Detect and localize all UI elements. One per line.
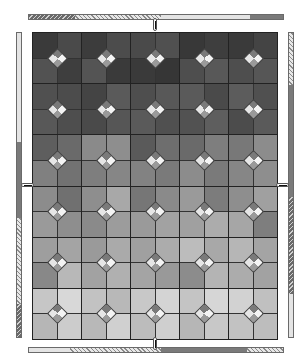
board-tile[interactable]	[229, 135, 277, 185]
board-tile[interactable]	[229, 84, 277, 134]
bar-segment	[17, 304, 21, 337]
board-tile[interactable]	[82, 135, 130, 185]
bar-segment	[70, 348, 161, 352]
bar-segment	[17, 33, 21, 142]
board-tile[interactable]	[131, 289, 179, 339]
board-tile[interactable]	[33, 289, 81, 339]
bar-segment	[75, 15, 161, 19]
board-tile[interactable]	[180, 238, 228, 288]
board-tile[interactable]	[131, 187, 179, 237]
bar-segment	[289, 197, 293, 294]
board-tile[interactable]	[180, 187, 228, 237]
board-tile[interactable]	[180, 84, 228, 134]
board-tile[interactable]	[131, 84, 179, 134]
board-tile[interactable]	[131, 238, 179, 288]
board-tile[interactable]	[82, 238, 130, 288]
game-board[interactable]	[32, 32, 278, 340]
board-tile[interactable]	[33, 84, 81, 134]
board-tile[interactable]	[180, 135, 228, 185]
bar-segment	[29, 15, 75, 19]
top-pointer-icon[interactable]	[153, 18, 157, 31]
board-tile[interactable]	[82, 84, 130, 134]
board-tile[interactable]	[131, 33, 179, 83]
bar-segment	[161, 348, 247, 352]
board-tile[interactable]	[82, 187, 130, 237]
bar-segment	[247, 348, 283, 352]
board-tile[interactable]	[131, 135, 179, 185]
bar-segment	[161, 15, 250, 19]
bar-segment	[17, 142, 21, 218]
bar-segment	[17, 218, 21, 303]
board-tile[interactable]	[33, 135, 81, 185]
bottom-pointer-icon[interactable]	[153, 337, 157, 350]
board-tile[interactable]	[82, 289, 130, 339]
board-tile[interactable]	[33, 187, 81, 237]
left-pointer-icon[interactable]	[21, 183, 34, 187]
board-tile[interactable]	[33, 238, 81, 288]
board-tile[interactable]	[82, 33, 130, 83]
board-tile[interactable]	[229, 238, 277, 288]
board-tile[interactable]	[229, 187, 277, 237]
right-pointer-icon[interactable]	[276, 183, 289, 187]
bar-segment	[29, 348, 70, 352]
board-tile[interactable]	[180, 33, 228, 83]
bar-segment	[250, 15, 283, 19]
board-tile[interactable]	[180, 289, 228, 339]
bar-segment	[289, 33, 293, 85]
bar-segment	[289, 85, 293, 197]
board-tile[interactable]	[229, 33, 277, 83]
board-tile[interactable]	[229, 289, 277, 339]
bar-segment	[289, 294, 293, 337]
board-tile[interactable]	[33, 33, 81, 83]
